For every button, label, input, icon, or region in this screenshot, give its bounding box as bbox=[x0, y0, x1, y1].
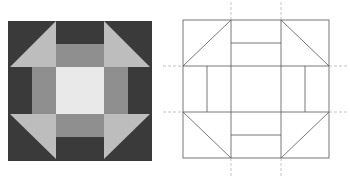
colored-quilt-block bbox=[8, 21, 152, 161]
cutting-guides bbox=[163, 2, 348, 176]
side-rect-left bbox=[32, 67, 56, 114]
diagonal-bottom-left bbox=[183, 112, 231, 158]
diagonal-top-right bbox=[281, 20, 329, 66]
diagonal-bottom-right bbox=[281, 112, 329, 158]
diagonal-top-left bbox=[183, 20, 231, 66]
side-rect-top bbox=[56, 44, 104, 67]
quilt-figure bbox=[0, 0, 350, 178]
line-diagram-block bbox=[183, 20, 329, 158]
outer-border bbox=[183, 20, 329, 158]
center-square bbox=[56, 67, 104, 114]
side-rect-right bbox=[104, 67, 128, 114]
side-rect-bottom bbox=[56, 114, 104, 137]
